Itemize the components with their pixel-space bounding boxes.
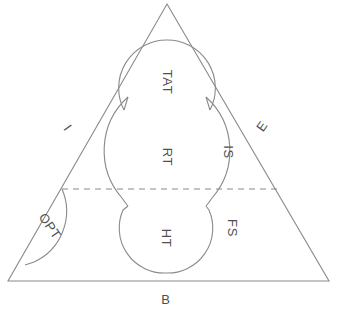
ht-rt-joint — [123, 206, 209, 210]
region-label-rt: RT — [161, 148, 174, 166]
region-label-is: IS — [222, 145, 235, 158]
rt-lower-merge-outline — [122, 198, 212, 206]
region-label-fs: FS — [226, 219, 239, 237]
edge-label-b: B — [161, 293, 170, 306]
region-label-tat: TAT — [161, 70, 174, 94]
region-label-ht: HT — [160, 229, 173, 248]
tat-rt-joint — [124, 97, 210, 110]
triangle-schematic-diagram: TAT RT HT IS FS OPT I E B — [0, 0, 341, 315]
